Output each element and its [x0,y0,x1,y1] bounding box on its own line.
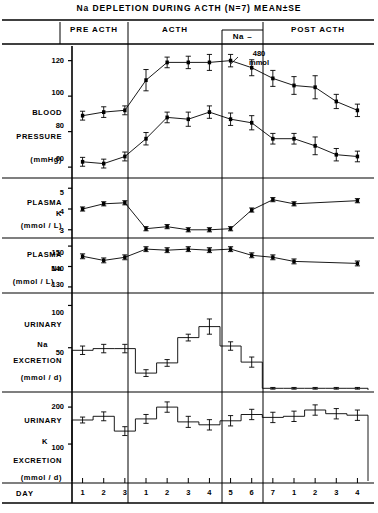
data-point [249,60,254,76]
day-tick-label: 3 [182,488,194,497]
day-tick-label: 2 [161,488,173,497]
day-tick-label: 3 [119,488,131,497]
data-point [143,133,148,145]
day-tick-label: 2 [98,488,110,497]
day-tick-label: 1 [288,488,300,497]
step-bar-outline [72,407,368,481]
day-tick-label: 3 [330,488,342,497]
step-bar-outline [72,327,368,390]
day-tick-label: 1 [140,488,152,497]
day-tick-label: 2 [309,488,321,497]
plot-svg [0,0,378,513]
data-point [270,70,275,86]
day-tick-label: 4 [351,488,363,497]
data-point [355,104,360,116]
day-tick-label: 7 [267,488,279,497]
day-tick-label: 4 [203,488,215,497]
day-tick-label: 1 [77,488,89,497]
data-point [122,152,127,161]
day-tick-label: 5 [225,488,237,497]
data-point [143,70,148,91]
figure-canvas: Na DEPLETION DURING ACTH (N=7) MEAN±SE P… [0,0,378,513]
data-point [313,137,318,155]
data-point [207,106,212,118]
day-tick-label: 6 [246,488,258,497]
data-point [334,94,339,108]
